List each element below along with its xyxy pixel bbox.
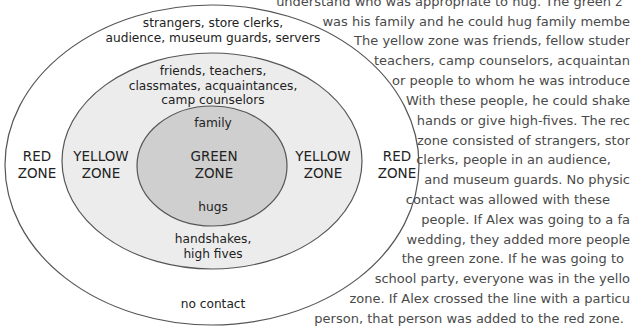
explanation-paragraph: understand who was appropriate to hug. T…: [230, 0, 630, 329]
label-line: ZONE: [18, 165, 57, 182]
paragraph-line: understand who was appropriate to hug. T…: [276, 0, 622, 12]
paragraph-line: hands or give high-fives. The rec: [417, 111, 630, 131]
label-line: YELLOW: [73, 148, 128, 165]
paragraph-line: With these people, he could shake: [406, 91, 630, 111]
paragraph-line: zone consisted of strangers, stor: [417, 131, 630, 151]
paragraph-line: person, that person was added to the red…: [314, 309, 624, 329]
paragraph-line: school party, everyone was in the yello: [375, 269, 630, 289]
paragraph-line: contact was allowed with these: [406, 190, 610, 210]
green-zone-contact: hugs: [198, 200, 228, 215]
label-line: ZONE: [73, 165, 128, 182]
yellow-zone-left-label: YELLOW ZONE: [73, 148, 128, 182]
paragraph-line: or people to whom he was introduce: [392, 71, 630, 91]
paragraph-line: The yellow zone was friends, fellow stud…: [354, 31, 630, 51]
paragraph-line: teachers, camp counselors, acquaintan: [374, 51, 630, 71]
paragraph-line: clerks, people in an audience,: [416, 150, 611, 170]
paragraph-line: was his family and he could hug family m…: [322, 12, 630, 32]
green-zone-people: family: [194, 116, 232, 131]
paragraph-line: people. If Alex was going to a fa: [421, 210, 630, 230]
paragraph-line: the green zone. If he was going to: [402, 249, 624, 269]
paragraph-line: zone. If Alex crossed the line with a pa…: [349, 289, 630, 309]
paragraph-line: wedding, they added more people: [407, 230, 630, 250]
red-zone-left-label: RED ZONE: [18, 148, 57, 182]
paragraph-line: and museum guards. No physic: [424, 170, 630, 190]
label-line: RED: [18, 148, 57, 165]
